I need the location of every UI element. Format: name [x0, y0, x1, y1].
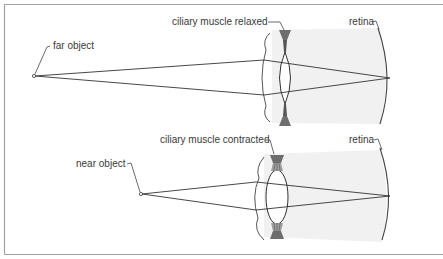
panel-near-object: near object ciliary muscle contracted re… — [76, 134, 390, 242]
far-object-leader — [35, 46, 50, 74]
far-object-label: far object — [53, 40, 94, 51]
retina-label-bottom: retina — [349, 134, 374, 145]
near-object-point — [139, 192, 142, 195]
cornea — [262, 33, 270, 122]
retina-leader-bottom — [374, 139, 382, 150]
far-object-point — [32, 74, 35, 77]
retina-label-top: retina — [349, 16, 374, 27]
ciliary-muscle-contracted-label: ciliary muscle contracted — [160, 134, 269, 145]
near-object-leader — [127, 163, 140, 192]
near-object-label: near object — [76, 158, 126, 169]
accommodation-diagram: far object ciliary muscle relaxed retina — [0, 0, 443, 259]
panel-far-object: far object ciliary muscle relaxed retina — [32, 16, 390, 126]
muscle-relaxed-leader — [268, 22, 284, 30]
lens-accommodated — [266, 170, 288, 224]
ciliary-muscle-relaxed-label: ciliary muscle relaxed — [172, 16, 268, 27]
cornea — [255, 157, 264, 240]
